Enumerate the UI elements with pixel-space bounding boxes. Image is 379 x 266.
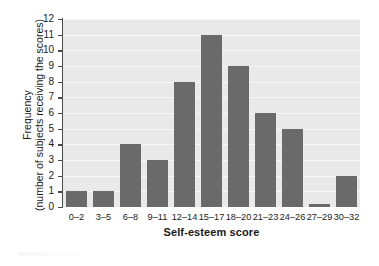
y-axis-tick: 9 [58, 66, 63, 67]
histogram-figure: Frequency (number of subjects receiving … [0, 0, 379, 266]
y-axis-tick-label: 3 [34, 153, 54, 166]
y-axis-tick: 3 [58, 160, 63, 161]
x-axis-tick-label: 3–5 [90, 210, 117, 224]
x-axis-title: Self-esteem score [63, 226, 360, 238]
x-axis-tick-label: 30–32 [333, 210, 360, 224]
bar [255, 113, 277, 207]
bar [174, 82, 196, 207]
y-axis-tick-label: 11 [34, 28, 54, 41]
bar [228, 66, 250, 207]
gridline [63, 19, 360, 20]
y-axis-tick: 8 [58, 82, 63, 83]
y-axis-tick: 11 [58, 35, 63, 36]
y-axis-tick: 7 [58, 97, 63, 98]
y-axis-tick-label: 7 [34, 90, 54, 103]
x-axis-tick-label: 0–2 [63, 210, 90, 224]
y-axis-tick-label: 6 [34, 106, 54, 119]
y-axis-tick: 2 [58, 176, 63, 177]
y-axis-tick-label: 10 [34, 43, 54, 56]
x-axis-tick-labels: 0–23–56–89–1112–1415–1718–2021–2324–2627… [63, 210, 360, 226]
y-axis-tick-label: 1 [34, 184, 54, 197]
y-axis-tick-label: 5 [34, 122, 54, 135]
bar [336, 176, 358, 207]
y-axis-tick: 6 [58, 113, 63, 114]
x-axis-tick-label: 6–8 [117, 210, 144, 224]
bar [120, 144, 142, 207]
bar [282, 129, 304, 207]
y-axis-tick-label: 8 [34, 75, 54, 88]
y-axis-tick-label: 12 [34, 12, 54, 25]
bar [147, 160, 169, 207]
y-axis-tick: 5 [58, 129, 63, 130]
y-axis-tick-label: 0 [34, 200, 54, 213]
y-axis-tick: 10 [58, 50, 63, 51]
y-axis-tick: 12 [58, 19, 63, 20]
x-axis-tick-label: 15–17 [198, 210, 225, 224]
y-axis-tick-label: 4 [34, 137, 54, 150]
bar [309, 204, 331, 207]
x-axis-tick-label: 24–26 [279, 210, 306, 224]
y-axis-tick-label: 9 [34, 59, 54, 72]
x-axis-tick-label: 21–23 [252, 210, 279, 224]
bar [201, 35, 223, 207]
y-axis-tick: 0 [58, 207, 63, 208]
bar [66, 191, 88, 207]
x-axis-tick-label: 18–20 [225, 210, 252, 224]
y-axis-tick: 4 [58, 144, 63, 145]
x-axis-tick-label: 12–14 [171, 210, 198, 224]
x-axis-tick-label: 9–11 [144, 210, 171, 224]
y-axis-tick: 1 [58, 191, 63, 192]
plot-area [63, 19, 360, 207]
y-axis-tick-label: 2 [34, 169, 54, 182]
scan-artifact [18, 252, 104, 256]
bar [93, 191, 115, 207]
plot-frame: 0123456789101112 [63, 19, 360, 207]
y-axis-title-line1: Frequency [22, 90, 34, 140]
x-axis-tick-label: 27–29 [306, 210, 333, 224]
